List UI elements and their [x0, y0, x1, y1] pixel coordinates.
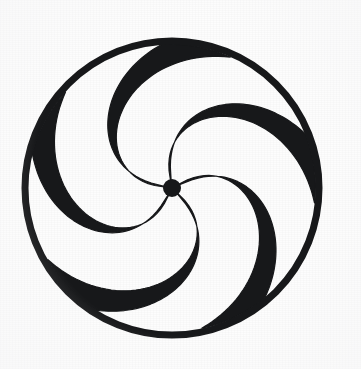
pinwheel-hub: [163, 179, 181, 197]
image-canvas: Pinwheel Symbol A solid black five-blade…: [0, 0, 361, 369]
pinwheel-figure: Pinwheel Symbol A solid black five-blade…: [0, 0, 361, 369]
